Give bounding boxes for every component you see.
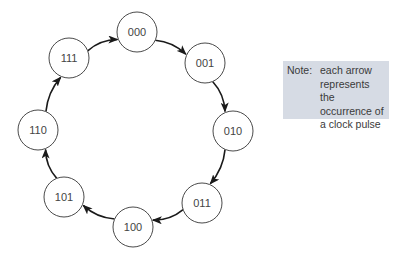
note-line-2: represents the: [287, 78, 385, 105]
state-nodes: 000001010011100101110111: [18, 12, 253, 247]
state-label: 001: [196, 57, 214, 69]
arrow-111-to-000: [88, 39, 118, 50]
state-label: 000: [128, 26, 146, 38]
arrow-101-to-110: [46, 150, 57, 179]
state-node-011: 011: [182, 183, 222, 223]
note-line-4: a clock pulse: [287, 118, 385, 132]
note-prefix: Note:: [287, 64, 320, 78]
state-node-111: 111: [49, 38, 89, 78]
state-label: 011: [193, 197, 211, 209]
arrow-100-to-101: [83, 205, 114, 219]
note-box: Note: each arrow represents the occurren…: [283, 61, 389, 119]
state-label: 100: [124, 221, 142, 233]
arrow-110-to-111: [46, 77, 61, 111]
state-node-101: 101: [44, 177, 84, 217]
state-node-110: 110: [18, 110, 58, 150]
state-node-000: 000: [117, 12, 157, 52]
state-label: 010: [224, 125, 242, 137]
arrow-010-to-011: [210, 149, 225, 183]
state-node-100: 100: [113, 207, 153, 247]
state-node-010: 010: [213, 111, 253, 151]
arrow-000-to-001: [155, 40, 186, 54]
arrow-001-to-010: [213, 81, 225, 111]
state-label: 111: [61, 52, 78, 64]
state-node-001: 001: [185, 43, 225, 83]
note-line-3: occurrence of: [287, 105, 385, 119]
state-label: 101: [55, 191, 73, 203]
note-line-1: each arrow: [320, 64, 372, 78]
arrow-011-to-100: [153, 210, 183, 221]
state-label: 110: [29, 124, 47, 136]
